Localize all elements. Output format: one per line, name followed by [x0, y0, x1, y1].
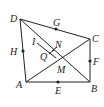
label-A: A — [15, 79, 23, 90]
label-F: F — [92, 56, 100, 67]
label-M: M — [56, 64, 66, 75]
label-N: N — [54, 39, 63, 50]
label-B: B — [91, 83, 97, 94]
label-G: G — [53, 17, 60, 28]
label-I: I — [31, 36, 36, 47]
right-angle-mark — [49, 50, 54, 54]
point-F — [88, 59, 91, 62]
label-E: E — [54, 85, 61, 96]
label-D: D — [9, 13, 18, 24]
label-C: C — [92, 33, 99, 44]
geometry-diagram: D G C F B E A H I N Q M — [0, 0, 104, 107]
point-E — [56, 80, 59, 83]
label-H: H — [9, 46, 18, 57]
point-H — [21, 49, 24, 52]
label-Q: Q — [40, 51, 48, 62]
